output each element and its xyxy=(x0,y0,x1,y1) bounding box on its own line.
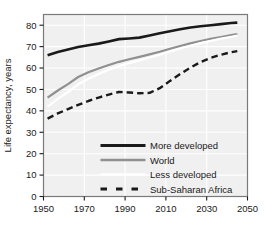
y-tick-label: 40 xyxy=(26,105,37,116)
legend-label-less-developed: Less developed xyxy=(150,169,217,180)
legend-label-sub-saharan-africa: Sub-Saharan Africa xyxy=(150,184,233,195)
y-tick-label: 0 xyxy=(31,191,36,202)
y-tick-label: 20 xyxy=(26,148,37,159)
x-tick-label: 1990 xyxy=(115,203,136,214)
x-tick-label: 2030 xyxy=(196,203,217,214)
y-tick-label: 30 xyxy=(26,127,37,138)
x-tick-label: 1950 xyxy=(33,203,54,214)
y-axis-title-text: Life expectancy, years xyxy=(2,58,13,152)
y-tick-label: 60 xyxy=(26,62,37,73)
legend-label-more-developed: More developed xyxy=(150,140,218,151)
life-expectancy-chart: 01020304050607080 1950197019902010203020… xyxy=(0,0,265,228)
legend-label-world: World xyxy=(150,155,175,166)
x-tick-label: 1970 xyxy=(74,203,95,214)
plot-area-background xyxy=(44,15,248,197)
y-tick-label: 10 xyxy=(26,169,37,180)
y-tick-label: 80 xyxy=(26,20,37,31)
y-tick-label: 70 xyxy=(26,41,37,52)
x-tick-label: 2050 xyxy=(237,203,258,214)
y-axis-title: Life expectancy, years xyxy=(2,58,13,152)
y-axis-tick-labels: 01020304050607080 xyxy=(26,20,37,202)
y-tick-label: 50 xyxy=(26,84,37,95)
chart-svg: 01020304050607080 1950197019902010203020… xyxy=(0,0,265,228)
x-tick-label: 2010 xyxy=(155,203,176,214)
